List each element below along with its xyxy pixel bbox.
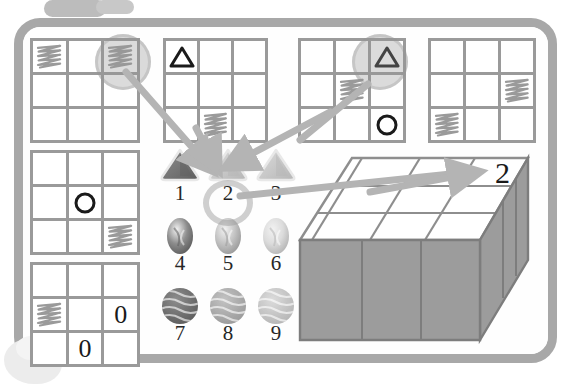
grid-cell[interactable] (301, 109, 333, 140)
pattern-grid-2[interactable] (163, 38, 268, 143)
circle-icon (69, 187, 102, 218)
option-label: 4 (158, 253, 202, 274)
grid-cell[interactable] (104, 75, 137, 106)
scribble-mark (36, 302, 63, 327)
isometric-box-number: 2 (495, 156, 510, 190)
option-4[interactable]: 4 (158, 216, 202, 274)
triangle-icon (166, 41, 197, 72)
option-label: 2 (206, 183, 250, 204)
oval-swatch[interactable] (158, 216, 202, 252)
grid-cell[interactable] (69, 109, 102, 140)
option-1[interactable]: 1 (158, 146, 202, 204)
grid-cell[interactable] (69, 153, 102, 184)
grid-cell[interactable] (431, 41, 463, 72)
option-label: 8 (206, 323, 250, 344)
option-7[interactable]: 7 (158, 286, 202, 344)
grid-cell[interactable] (33, 265, 66, 296)
grid-cell[interactable] (166, 75, 197, 106)
circle-icon (371, 109, 403, 140)
grid-cell[interactable] (33, 153, 66, 184)
grid-cell[interactable] (200, 109, 231, 140)
grid-cell[interactable] (466, 109, 498, 140)
grid-cell[interactable] (69, 41, 102, 72)
board-tab-shadow (96, 0, 134, 14)
triangle-swatch[interactable] (158, 146, 202, 182)
grid-cell[interactable] (200, 75, 231, 106)
grid-cell[interactable] (234, 75, 265, 106)
grid-cell[interactable] (104, 265, 137, 296)
scribble-mark (203, 112, 228, 137)
grid-cell[interactable] (33, 221, 66, 252)
pattern-grid-4[interactable] (428, 38, 536, 143)
grid-cell[interactable] (371, 75, 403, 106)
grid-cell[interactable] (104, 109, 137, 140)
grid-cell[interactable] (431, 109, 463, 140)
circle-swatch[interactable] (206, 286, 250, 322)
grid-cell[interactable] (69, 299, 102, 330)
grid-cell[interactable] (104, 153, 137, 184)
triangle-swatch[interactable] (206, 146, 250, 182)
grid-cell[interactable] (33, 109, 66, 140)
grid-cell[interactable] (234, 41, 265, 72)
grid-cell[interactable] (466, 41, 498, 72)
grid-cell[interactable] (33, 41, 66, 72)
grid-cell[interactable] (33, 299, 66, 330)
scribble-mark (36, 44, 63, 69)
grid-cell[interactable] (166, 109, 197, 140)
grid-cell[interactable] (336, 41, 368, 72)
grid-cell[interactable] (301, 75, 333, 106)
zero-digit: 0 (104, 299, 137, 330)
grid-cell[interactable] (104, 187, 137, 218)
option-label: 5 (206, 253, 250, 274)
grid-cell[interactable] (104, 221, 137, 252)
grid-cell[interactable] (371, 41, 403, 72)
grid-cell[interactable] (301, 41, 333, 72)
option-2[interactable]: 2 (206, 146, 250, 204)
grid-cell[interactable] (336, 109, 368, 140)
circle-swatch[interactable] (158, 286, 202, 322)
grid-cell[interactable] (501, 109, 533, 140)
option-5[interactable]: 5 (206, 216, 250, 274)
scribble-mark (107, 224, 134, 249)
grid-cell[interactable] (234, 109, 265, 140)
grid-cell[interactable] (431, 75, 463, 106)
option-label: 1 (158, 183, 202, 204)
isometric-answer-box[interactable]: 2 (290, 148, 538, 348)
option-label: 7 (158, 323, 202, 344)
scribble-mark (107, 44, 134, 69)
grid-cell[interactable] (69, 221, 102, 252)
scribble-mark (504, 78, 530, 103)
grid-cell[interactable]: 0 (104, 299, 137, 330)
grid-cell[interactable] (166, 41, 197, 72)
pattern-grid-1[interactable] (30, 38, 140, 143)
grid-cell[interactable] (33, 75, 66, 106)
grid-cell[interactable] (501, 41, 533, 72)
pattern-grid-3[interactable] (298, 38, 406, 143)
grid-cell[interactable] (69, 265, 102, 296)
grid-cell[interactable] (33, 187, 66, 218)
grid-cell[interactable] (69, 75, 102, 106)
grid-cell[interactable] (104, 41, 137, 72)
oval-swatch[interactable] (206, 216, 250, 252)
grid-cell[interactable] (336, 75, 368, 106)
pattern-grid-6[interactable]: 00 (30, 262, 140, 367)
grid-cell[interactable] (33, 333, 66, 364)
scribble-mark (339, 78, 365, 103)
grid-cell[interactable] (69, 187, 102, 218)
scribble-mark (434, 112, 460, 137)
grid-cell[interactable] (466, 75, 498, 106)
answer-options[interactable]: 123456789 (158, 146, 298, 358)
grid-cell[interactable] (371, 109, 403, 140)
grid-cell[interactable] (104, 333, 137, 364)
grid-cell[interactable] (200, 41, 231, 72)
pattern-grid-5[interactable] (30, 150, 140, 255)
triangle-icon (371, 41, 403, 72)
option-8[interactable]: 8 (206, 286, 250, 344)
grid-cell[interactable]: 0 (69, 333, 102, 364)
grid-cell[interactable] (501, 75, 533, 106)
zero-digit: 0 (69, 333, 102, 364)
